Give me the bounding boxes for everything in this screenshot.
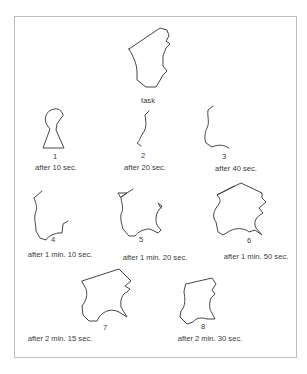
stage-2-shape xyxy=(137,111,149,146)
stage-3-caption: after 40 sec. xyxy=(215,165,257,173)
stage-7-number: 7 xyxy=(103,324,107,332)
stage-4-shape xyxy=(34,191,68,240)
stage-8-shape xyxy=(180,278,216,324)
stage-5-shape xyxy=(118,189,162,236)
stage-4-caption: after 1 min. 10 sec. xyxy=(28,251,93,259)
stage-2-number: 2 xyxy=(141,152,145,160)
stage-8-number: 8 xyxy=(201,323,205,331)
stage-6-shape xyxy=(214,183,266,235)
stage-7-shape xyxy=(82,269,131,321)
stage-2-caption: after 20 sec. xyxy=(124,164,166,172)
stage-4-number: 4 xyxy=(51,236,55,244)
stage-1-caption: after 10 sec. xyxy=(35,164,77,172)
task-shape xyxy=(129,28,170,87)
stage-3-number: 3 xyxy=(222,153,226,161)
task-label: task xyxy=(141,97,155,105)
stage-1-shape xyxy=(43,109,64,148)
stage-8-caption: after 2 min. 30 sec. xyxy=(178,335,243,343)
stage-5-caption: after 1 min. 20 sec. xyxy=(123,254,188,262)
stage-3-shape xyxy=(205,106,229,148)
stage-5-number: 5 xyxy=(139,236,143,244)
drawing-canvas xyxy=(0,0,307,374)
stage-1-number: 1 xyxy=(53,153,57,161)
stage-6-number: 6 xyxy=(247,237,251,245)
stage-7-caption: after 2 min. 15 sec. xyxy=(28,335,93,343)
stage-6-caption: after 1 min. 50 sec. xyxy=(224,253,289,261)
